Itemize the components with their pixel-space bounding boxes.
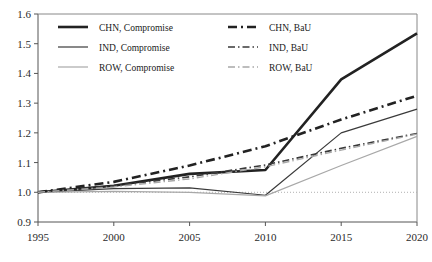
y-tick-label: 0.9 [17,216,31,228]
series-line [38,109,417,195]
y-tick-label: 1.0 [17,186,31,198]
legend-label: ROW, BaU [269,63,313,73]
line-chart: 1.61.51.41.31.21.11.00.91995200020052010… [0,0,432,262]
x-tick-label: 2010 [254,231,277,243]
legend-entry: CHN, BaU [228,23,311,33]
legend-entry: IND, BaU [228,43,308,53]
x-tick-label: 2020 [406,231,429,243]
x-tick-label: 1995 [27,231,50,243]
legend-label: ROW, Compromise [99,63,174,73]
legend-entry: ROW, BaU [228,63,313,73]
legend-entry: ROW, Compromise [58,63,174,73]
legend-label: CHN, BaU [269,23,311,33]
legend-entry: IND, Compromise [58,43,170,53]
y-tick-label: 1.1 [17,157,31,169]
legend-label: IND, Compromise [99,43,170,53]
legend-label: IND, BaU [269,43,308,53]
legend-entry: CHN, Compromise [58,23,173,33]
x-tick-label: 2000 [103,231,126,243]
legend-label: CHN, Compromise [99,23,173,33]
series-line [38,33,417,192]
chart-container: 1.61.51.41.31.21.11.00.91995200020052010… [0,0,432,262]
y-tick-label: 1.4 [17,67,31,79]
y-tick-label: 1.2 [17,127,31,139]
series-line [38,96,417,193]
y-tick-label: 1.5 [17,38,31,50]
x-tick-label: 2015 [330,231,353,243]
x-tick-label: 2005 [179,231,202,243]
y-tick-label: 1.3 [17,97,31,109]
y-tick-label: 1.6 [17,8,31,20]
